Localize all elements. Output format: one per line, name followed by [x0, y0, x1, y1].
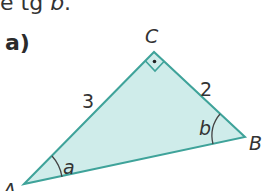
vertex-label-c: C	[145, 25, 159, 47]
angle-label-a: a	[63, 156, 75, 178]
vertex-label-b: B	[249, 132, 262, 154]
right-angle-dot	[153, 60, 157, 64]
side-label-ac: 3	[82, 90, 94, 112]
side-label-cb: 2	[200, 78, 212, 100]
angle-label-b: b	[199, 117, 211, 139]
vertex-label-a: A	[1, 179, 16, 191]
triangle-figure: A C B 3 2 a b	[0, 0, 276, 191]
